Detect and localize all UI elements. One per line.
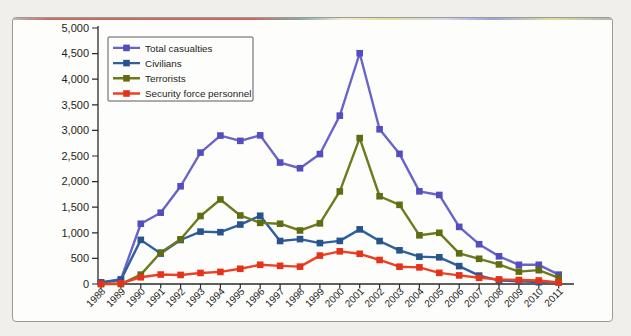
data-point-marker xyxy=(376,193,383,200)
y-axis-label: 1,500 xyxy=(61,201,89,213)
series-security-force-personnel xyxy=(98,248,562,287)
data-point-marker xyxy=(317,252,324,259)
y-axis-label: 0 xyxy=(83,278,89,290)
legend-marker-swatch xyxy=(123,75,130,82)
data-point-marker xyxy=(297,236,304,243)
data-point-marker xyxy=(456,272,463,279)
data-point-marker xyxy=(237,221,244,228)
y-axis-label: 500 xyxy=(71,252,89,264)
data-point-marker xyxy=(138,237,145,244)
y-axis-label: 2,500 xyxy=(61,150,89,162)
data-point-marker xyxy=(177,236,184,243)
x-axis-label: 1994 xyxy=(203,285,227,309)
data-point-marker xyxy=(277,238,284,245)
data-point-marker xyxy=(217,132,224,139)
data-point-marker xyxy=(356,50,363,57)
data-point-marker xyxy=(337,188,344,195)
data-point-marker xyxy=(337,248,344,255)
data-point-marker xyxy=(197,270,204,277)
data-point-marker xyxy=(237,138,244,145)
data-point-marker xyxy=(476,256,483,263)
data-point-marker xyxy=(376,238,383,245)
data-point-marker xyxy=(436,254,443,261)
data-point-marker xyxy=(157,209,164,216)
data-point-marker xyxy=(476,241,483,248)
data-point-marker xyxy=(396,202,403,209)
x-axis-label: 1999 xyxy=(303,285,327,309)
x-axis-label: 2002 xyxy=(363,285,387,309)
data-point-marker xyxy=(257,212,264,219)
data-point-marker xyxy=(456,250,463,257)
data-point-marker xyxy=(356,135,363,142)
data-point-marker xyxy=(138,274,145,281)
x-axis-label: 1998 xyxy=(283,285,307,309)
data-point-marker xyxy=(376,126,383,133)
data-point-marker xyxy=(317,220,324,227)
x-axis-label: 2004 xyxy=(402,285,426,309)
data-point-marker xyxy=(396,263,403,270)
series-line-civilians xyxy=(101,216,559,283)
y-axis-label: 3,000 xyxy=(61,124,89,136)
x-axis-label: 1997 xyxy=(263,285,287,309)
data-point-marker xyxy=(376,257,383,264)
data-point-marker xyxy=(436,230,443,237)
x-axis-label: 2011 xyxy=(542,285,565,308)
data-point-marker xyxy=(217,269,224,276)
data-point-marker xyxy=(138,220,145,227)
data-point-marker xyxy=(317,240,324,247)
y-axis-label: 3,500 xyxy=(61,99,89,111)
data-point-marker xyxy=(536,267,543,274)
legend-label: Total casualties xyxy=(145,43,213,54)
data-point-marker xyxy=(118,280,125,287)
legend-label: Security force personnel xyxy=(145,88,251,99)
data-point-marker xyxy=(257,132,264,139)
scan-artifact-line xyxy=(13,18,612,20)
x-axis-label: 2006 xyxy=(442,285,466,309)
legend-label: Terrorists xyxy=(145,73,186,84)
data-point-marker xyxy=(277,263,284,270)
data-point-marker xyxy=(356,226,363,233)
data-point-marker xyxy=(416,253,423,260)
x-axis-label: 2008 xyxy=(482,285,506,309)
data-point-marker xyxy=(317,151,324,158)
data-point-marker xyxy=(337,112,344,119)
data-point-marker xyxy=(337,238,344,245)
data-point-marker xyxy=(516,268,523,275)
data-point-marker xyxy=(396,247,403,254)
x-axis-label: 2005 xyxy=(422,285,446,309)
y-axis-label: 5,000 xyxy=(61,22,89,34)
x-axis-label: 1991 xyxy=(144,285,168,309)
data-point-marker xyxy=(297,227,304,234)
chart-frame: 05001,0001,5002,0002,5003,0003,5004,0004… xyxy=(12,17,613,322)
y-axis-label: 2,000 xyxy=(61,175,89,187)
data-point-marker xyxy=(436,192,443,199)
data-point-marker xyxy=(177,183,184,190)
data-point-marker xyxy=(98,281,105,288)
legend-marker-swatch xyxy=(123,45,130,52)
data-point-marker xyxy=(496,253,503,260)
x-axis-label: 1992 xyxy=(164,285,188,309)
y-axis-label: 4,000 xyxy=(61,73,89,85)
x-axis-label: 1989 xyxy=(104,285,128,309)
data-point-marker xyxy=(177,272,184,279)
data-point-marker xyxy=(416,264,423,271)
data-point-marker xyxy=(516,262,523,269)
data-point-marker xyxy=(356,250,363,257)
data-point-marker xyxy=(396,151,403,158)
series-line-security-force-personnel xyxy=(101,251,559,284)
data-point-marker xyxy=(237,265,244,272)
data-point-marker xyxy=(297,165,304,172)
data-point-marker xyxy=(416,188,423,195)
data-point-marker xyxy=(277,159,284,166)
data-point-marker xyxy=(157,249,164,256)
data-point-marker xyxy=(217,196,224,203)
x-axis-label: 1996 xyxy=(243,285,267,309)
data-point-marker xyxy=(197,213,204,220)
legend-marker-swatch xyxy=(123,60,130,67)
scanned-figure-page: 05001,0001,5002,0002,5003,0003,5004,0004… xyxy=(0,0,631,336)
x-axis-label: 2010 xyxy=(522,285,546,309)
data-point-marker xyxy=(536,277,543,284)
y-axis-label: 1,000 xyxy=(61,227,89,239)
data-point-marker xyxy=(456,263,463,270)
x-axis-label: 1993 xyxy=(183,285,207,309)
